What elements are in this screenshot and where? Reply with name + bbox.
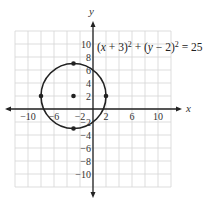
x-tick-label: 2 (104, 111, 109, 122)
y-tick-label: 8 (86, 52, 91, 63)
equation-text: + ( (132, 41, 148, 54)
y-tick-label: 10 (81, 39, 91, 50)
y-tick-label: −10 (75, 169, 91, 180)
x-tick-label: −6 (49, 111, 60, 122)
y-tick-label: 2 (86, 91, 91, 102)
equation-label: (x + 3)2 + (y − 2)2 = 25 (97, 40, 203, 54)
data-point (71, 61, 76, 66)
y-tick-label: −4 (80, 130, 91, 141)
y-tick-label: −8 (80, 156, 91, 167)
equation-text: = 25 (179, 41, 203, 53)
equation-text: + 3) (106, 41, 128, 54)
x-tick-label: 6 (130, 111, 135, 122)
data-point (71, 94, 76, 99)
equation-text: − 2) (153, 41, 175, 54)
x-tick-label: 10 (153, 111, 163, 122)
y-tick-label: 4 (86, 78, 91, 89)
data-point (104, 94, 109, 99)
data-point (71, 126, 76, 131)
y-axis-arrow-up-icon (91, 21, 96, 27)
x-tick-label: −10 (20, 111, 36, 122)
x-axis-label: x (185, 102, 191, 114)
graph-figure: −10−6−22610108642−2−4−6−8−10 x y (x + 3)… (0, 0, 208, 206)
y-axis-arrow-down-icon (91, 192, 96, 198)
x-axis-arrow-right-icon (176, 107, 182, 112)
coordinate-plane: −10−6−22610108642−2−4−6−8−10 x y (x + 3)… (0, 0, 208, 206)
y-tick-label: −6 (80, 143, 91, 154)
data-point (39, 94, 44, 99)
y-axis-label: y (88, 5, 94, 17)
x-axis-arrow-left-icon (5, 107, 11, 112)
